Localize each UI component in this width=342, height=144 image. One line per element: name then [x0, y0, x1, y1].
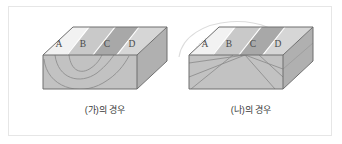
stratum-label-b: B	[80, 39, 86, 49]
caption-ga: (가)의 경우	[25, 103, 185, 116]
block-diagram-na: A B C D	[171, 7, 331, 113]
stratum-label-c: C	[250, 39, 256, 49]
panel-na: A B C D (나)의 경우	[171, 7, 331, 137]
stratum-label-a: A	[56, 39, 63, 49]
front-face-ga	[43, 55, 137, 89]
stratum-label-a: A	[202, 39, 209, 49]
front-face-na	[189, 55, 283, 89]
stratum-label-c: C	[104, 39, 110, 49]
caption-na: (나)의 경우	[171, 103, 331, 116]
stratum-label-b: B	[226, 39, 232, 49]
panel-ga: A B C D (가)의 경우	[25, 7, 185, 137]
block-diagram-ga: A B C D	[25, 7, 185, 113]
stratum-label-d: D	[129, 39, 136, 49]
figure-frame: A B C D (가)의 경우	[8, 6, 332, 136]
figure-root: A B C D (가)의 경우	[0, 0, 342, 144]
stratum-label-d: D	[275, 39, 282, 49]
